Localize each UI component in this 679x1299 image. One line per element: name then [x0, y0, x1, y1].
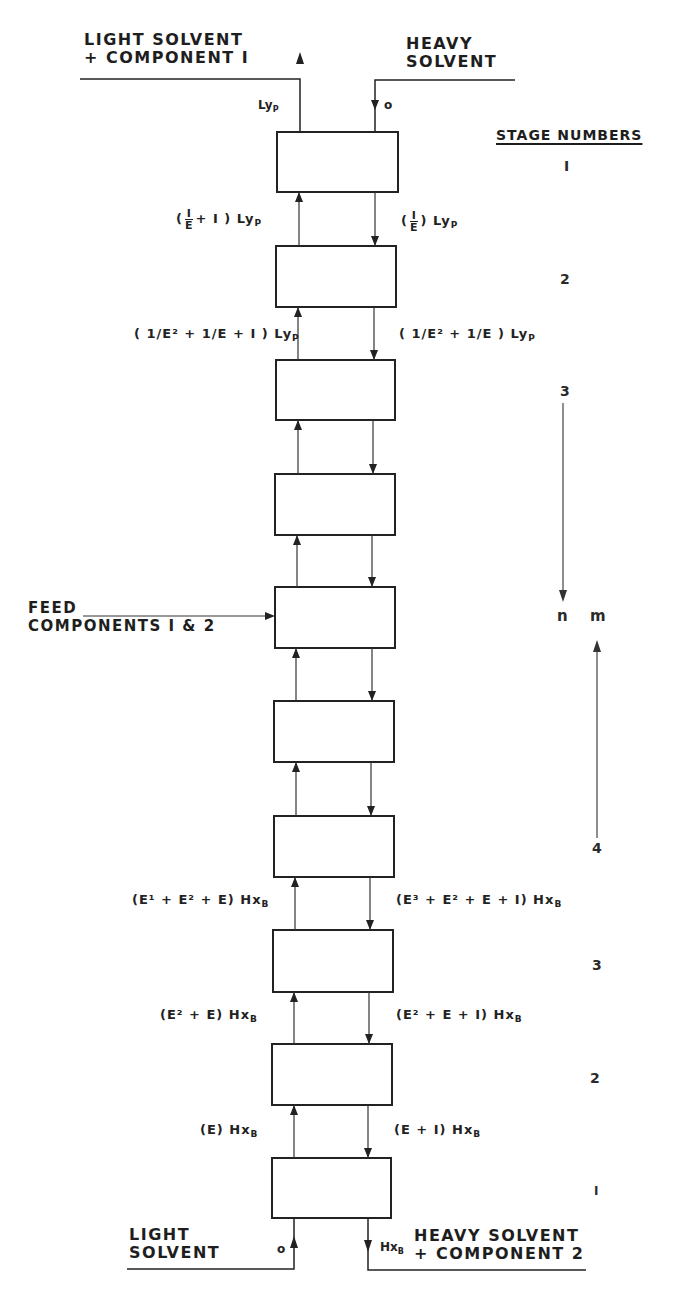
flow-text: o [384, 98, 392, 112]
fraction: IE [410, 210, 419, 233]
bottom-heavy-out-flow: HxB [380, 1240, 404, 1256]
flow-left-2-1: (E) HxB [200, 1122, 258, 1139]
flow-left-4-3: (E¹ + E² + E) HxB [132, 892, 269, 909]
denominator: E [185, 220, 194, 231]
stage-box-5-feed [275, 587, 395, 648]
denominator: E [410, 222, 419, 233]
stage-number-bottom-3: 3 [592, 957, 602, 973]
stage-marker-m: m [590, 607, 606, 625]
top-left-label-line1: LIGHT SOLVENT [84, 31, 249, 49]
flow-left-2-3: ( 1/E² + 1/E + I ) LyP [134, 326, 300, 343]
flow-text: (E + I) Hx [394, 1122, 473, 1137]
heavy-in-arrow-icon [371, 100, 379, 110]
flow-left-3-2: (E² + E) HxB [160, 1007, 258, 1024]
stage-number-bottom-2: 2 [590, 1070, 600, 1086]
flow-text: o [277, 1242, 285, 1256]
stage-number-top-1: I [564, 158, 569, 174]
subscript: B [473, 1129, 481, 1139]
heavy-out-arrow-icon [364, 1240, 372, 1252]
flow-text: ( 1/E² + 1/E + I ) Ly [134, 326, 292, 341]
flow-text: ( 1/E² + 1/E ) Ly [399, 326, 528, 341]
feed-arrow-icon [265, 612, 275, 620]
stage-box-9 [272, 1044, 392, 1105]
flow-right-4-3: (E³ + E² + E + I) HxB [396, 892, 562, 909]
bottom-left-label-line1: LIGHT [129, 1226, 220, 1244]
flow-text: (E) Hx [200, 1122, 251, 1137]
enriching-count-arrowhead-icon [559, 590, 567, 602]
subscript: P [528, 333, 536, 343]
bottom-light-in-flow: o [277, 1242, 285, 1256]
feed-label: FEED COMPONENTS I & 2 [28, 599, 216, 635]
suffix: ) Ly [420, 213, 450, 228]
subscript: B [515, 1014, 523, 1024]
stage-number-bottom-1: I [594, 1184, 598, 1198]
flow-right-1-2: (IE) LyP [401, 210, 458, 233]
flow-arrowheads [290, 192, 379, 1158]
paren: ( [176, 211, 183, 226]
flow-right-2-3: ( 1/E² + 1/E ) LyP [399, 326, 536, 343]
fraction: IE [185, 208, 194, 231]
flow-sub: P [273, 105, 279, 114]
feed-label-line1: FEED [28, 599, 216, 617]
flow-text: (E² + E + I) Hx [396, 1007, 515, 1022]
stage-box-6 [274, 701, 394, 762]
stage-boxes [272, 132, 398, 1218]
stage-box-1 [277, 132, 398, 192]
stripping-count-arrowhead-icon [593, 640, 601, 652]
bottom-right-label: HEAVY SOLVENT + COMPONENT 2 [414, 1227, 584, 1263]
subscript: P [255, 218, 263, 228]
flow-text: (E¹ + E² + E) Hx [132, 892, 262, 907]
light-out-arrow-icon [296, 52, 304, 64]
stage-box-7 [274, 816, 394, 877]
flow-text: Hx [380, 1240, 398, 1254]
stage-box-4 [275, 474, 395, 535]
stage-number-top-2: 2 [560, 271, 570, 287]
suffix: + I ) Ly [195, 211, 254, 226]
bottom-left-label-line2: SOLVENT [129, 1244, 220, 1262]
stage-box-2 [276, 246, 396, 307]
inter-stage-streams [294, 192, 375, 1158]
stage-number-top-3: 3 [560, 383, 570, 399]
top-right-label-line1: HEAVY [406, 35, 497, 53]
bottom-right-label-line2: + COMPONENT 2 [414, 1245, 584, 1263]
flow-right-3-2: (E² + E + I) HxB [396, 1007, 523, 1024]
stage-numbers-header: STAGE NUMBERS [496, 126, 642, 144]
top-heavy-in-flow: o [384, 98, 392, 112]
flow-right-2-1: (E + I) HxB [394, 1122, 481, 1139]
feed-label-line2: COMPONENTS I & 2 [28, 617, 216, 635]
light-in-arrow-icon [290, 1236, 298, 1248]
stage-box-10 [272, 1158, 391, 1218]
stage-marker-n: n [557, 607, 568, 625]
bottom-right-label-line1: HEAVY SOLVENT [414, 1227, 584, 1245]
top-left-label: LIGHT SOLVENT + COMPONENT I [84, 31, 249, 67]
stage-box-8 [273, 930, 393, 992]
top-light-out-flow: LyP [258, 98, 279, 114]
subscript: B [251, 1129, 259, 1139]
flow-text: Ly [258, 98, 273, 112]
top-right-label: HEAVY SOLVENT [406, 35, 497, 71]
bottom-left-label: LIGHT SOLVENT [129, 1226, 220, 1262]
flow-left-1-2: (IE+ I ) LyP [176, 208, 262, 231]
subscript: B [250, 1014, 258, 1024]
flow-text: (E² + E) Hx [160, 1007, 250, 1022]
stage-number-bottom-4: 4 [592, 840, 602, 856]
flow-text: (E³ + E² + E + I) Hx [396, 892, 554, 907]
subscript: B [398, 1247, 404, 1256]
countercurrent-extraction-diagram [0, 0, 679, 1299]
subscript: B [262, 899, 270, 909]
paren: ( [401, 213, 408, 228]
top-left-label-line2: + COMPONENT I [84, 49, 249, 67]
top-right-label-line2: SOLVENT [406, 53, 497, 71]
stage-box-3 [276, 360, 395, 420]
subscript: B [554, 899, 562, 909]
subscript: P [292, 333, 300, 343]
subscript: P [451, 220, 459, 230]
top-streams [80, 79, 515, 132]
